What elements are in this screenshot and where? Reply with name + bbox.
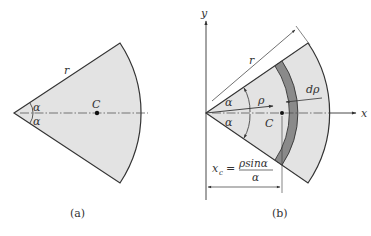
rho-label: ρ <box>257 94 265 107</box>
centroid-label-a: C <box>92 98 101 111</box>
xc-symbol: x <box>212 162 219 175</box>
angle-label-top-a: α <box>33 101 41 114</box>
caption-b: (b) <box>272 207 288 220</box>
y-axis-label: y <box>200 7 208 20</box>
d-rho-label: dρ <box>306 83 320 96</box>
xc-subscript: c <box>219 169 223 177</box>
xc-equals: = <box>226 162 235 175</box>
centroid-dot-b <box>280 111 284 115</box>
angle-label-top-b: α <box>225 96 233 109</box>
radius-label-b: r <box>249 54 255 67</box>
xc-formula: x c = ρsinα α <box>212 157 273 183</box>
centroid-label-b: C <box>265 117 274 130</box>
caption-a: (a) <box>70 207 85 220</box>
figure-a: r α α C (a) <box>14 43 148 220</box>
diagram-canvas: r α α C (a) y x r ρ dρ α α C <box>0 0 371 236</box>
radius-extension-line <box>296 26 310 45</box>
radius-label-a: r <box>64 64 70 77</box>
x-axis-label: x <box>361 107 368 120</box>
centroid-dot-a <box>95 111 99 115</box>
xc-numerator: ρsinα <box>238 157 268 169</box>
figure-b: y x r ρ dρ α α C x c = ρsinα α <box>200 7 368 220</box>
angle-label-bottom-a: α <box>33 115 41 128</box>
xc-denominator: α <box>252 171 259 183</box>
angle-label-bottom-b: α <box>225 116 233 129</box>
